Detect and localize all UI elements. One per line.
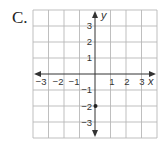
y-tick-label: 1 [87,52,92,63]
x-tick-label: 1 [109,76,114,87]
x-tick-label: 3 [139,76,144,87]
y-tick-label: −3 [81,117,92,128]
data-point [94,104,98,108]
y-axis-down-arrow-icon [92,130,98,137]
x-tick-label: 2 [124,76,129,87]
x-tick-label: −3 [36,76,47,87]
y-tick-label: −2 [81,101,92,112]
y-tick-label: −1 [81,84,92,95]
y-tick-label: 2 [87,36,92,47]
y-axis-label: y [100,9,108,21]
x-tick-label: −2 [53,76,64,87]
y-tick-label: 3 [87,20,92,31]
x-tick-label: −1 [69,76,80,87]
y-axis-up-arrow-icon [92,11,98,18]
coordinate-plane: y x −3 −2 −1 1 2 3 3 2 1 −1 −2 −3 [0,0,165,154]
x-axis-label: x [147,75,154,87]
